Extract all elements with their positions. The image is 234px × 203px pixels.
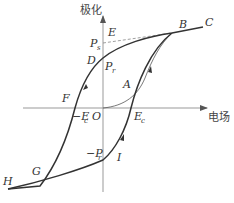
label-D: D [86, 54, 96, 67]
hysteresis-diagram: 极化 电场 O E B C D A F G H I P s P r −P r E… [0, 0, 234, 203]
svg-text:c: c [141, 117, 145, 125]
label-I: I [116, 151, 122, 164]
label-Ps: P s [89, 37, 101, 52]
label-neg-Ec: −E c [72, 110, 89, 125]
label-neg-Pr: −P r [86, 147, 103, 162]
label-H: H [2, 175, 13, 188]
label-C: C [205, 16, 214, 29]
label-F: F [61, 92, 70, 105]
origin-label: O [92, 110, 101, 123]
svg-text:r: r [112, 67, 116, 75]
label-Ec: E c [133, 110, 145, 125]
label-E: E [107, 26, 116, 39]
svg-text:s: s [97, 44, 101, 52]
label-B: B [178, 18, 187, 31]
svg-text:c: c [84, 117, 88, 125]
label-G: G [32, 165, 41, 178]
label-A: A [122, 78, 131, 91]
x-axis-label: 电场 [208, 110, 230, 124]
y-axis-label: 极化 [80, 3, 102, 17]
label-Pr: P r [104, 60, 116, 75]
